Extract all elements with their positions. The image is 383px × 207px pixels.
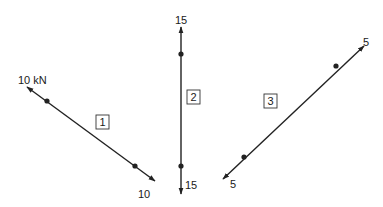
member-3-node-a <box>333 63 338 68</box>
member-1: 1 10 kN 10 <box>18 74 155 200</box>
member-2-id-label: 2 <box>191 91 197 103</box>
member-3-force-start-label: 5 <box>363 36 369 48</box>
member-1-id-label: 1 <box>100 116 106 128</box>
member-1-force-start-label: 10 kN <box>18 74 47 86</box>
member-1-node-a <box>44 98 49 103</box>
member-3: 3 5 5 <box>223 36 369 190</box>
member-3-force-end-label: 5 <box>230 178 236 190</box>
member-2-force-end-label: 15 <box>185 179 197 191</box>
member-3-id-label: 3 <box>268 95 274 107</box>
truss-force-diagram: 1 10 kN 10 2 15 15 3 5 5 <box>0 0 383 207</box>
member-1-node-b <box>132 163 137 168</box>
member-2-node-a <box>178 51 183 56</box>
member-1-force-end-label: 10 <box>138 188 150 200</box>
member-2-force-start-label: 15 <box>175 14 187 26</box>
member-3-node-b <box>241 154 246 159</box>
member-2: 2 15 15 <box>175 14 200 194</box>
member-2-node-b <box>178 163 183 168</box>
